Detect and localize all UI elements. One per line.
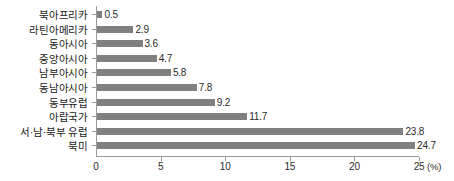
bar-chart: 북아프리카0.5라틴아메리카2.9동아시아3.6중앙아시아4.7남부아시아5.8… xyxy=(0,0,454,181)
x-axis-tick-label: 15 xyxy=(284,161,295,172)
y-axis-line xyxy=(96,6,97,156)
category-label: 동남아시아 xyxy=(0,81,92,94)
bar-row: 동남아시아7.8 xyxy=(0,81,454,94)
category-label: 북미 xyxy=(0,139,92,152)
bar-value-label: 24.7 xyxy=(415,139,436,152)
x-axis-tick-label: 10 xyxy=(220,161,231,172)
x-axis-tick-label: 20 xyxy=(349,161,360,172)
bar xyxy=(96,40,143,47)
bar xyxy=(96,55,157,62)
bar-value-label: 5.8 xyxy=(171,66,186,79)
bar-row: 북아프리카0.5 xyxy=(0,8,454,21)
bar-value-label: 0.5 xyxy=(102,8,117,21)
bar-value-label: 3.6 xyxy=(143,37,158,50)
bar xyxy=(96,128,403,135)
bar-row: 아랍국가11.7 xyxy=(0,110,454,123)
bar xyxy=(96,113,247,120)
x-axis-unit-label: (%) xyxy=(427,161,441,172)
category-label: 남부아시아 xyxy=(0,66,92,79)
bar-row: 남부아시아5.8 xyxy=(0,66,454,79)
bar xyxy=(96,99,215,106)
category-label: 중앙아시아 xyxy=(0,52,92,65)
category-label: 아랍국가 xyxy=(0,110,92,123)
bar-value-label: 2.9 xyxy=(133,23,148,36)
category-label: 서·남·북부 유럽 xyxy=(0,125,92,138)
bar-row: 동부유럽9.2 xyxy=(0,96,454,109)
category-label: 북아프리카 xyxy=(0,8,92,21)
category-label: 라틴아메리카 xyxy=(0,23,92,36)
bar-row: 중앙아시아4.7 xyxy=(0,52,454,65)
category-label: 동부유럽 xyxy=(0,96,92,109)
bar-value-label: 23.8 xyxy=(403,125,424,138)
bar xyxy=(96,84,197,91)
bar-row: 북미24.7 xyxy=(0,139,454,152)
plot-area: 북아프리카0.5라틴아메리카2.9동아시아3.6중앙아시아4.7남부아시아5.8… xyxy=(0,0,454,181)
bar-value-label: 9.2 xyxy=(215,96,230,109)
bar-value-label: 7.8 xyxy=(197,81,212,94)
bar xyxy=(96,26,133,33)
category-label: 동아시아 xyxy=(0,37,92,50)
x-axis-line xyxy=(96,156,419,157)
bar-row: 라틴아메리카2.9 xyxy=(0,23,454,36)
bar-row: 서·남·북부 유럽23.8 xyxy=(0,125,454,138)
bar-value-label: 11.7 xyxy=(247,110,267,123)
bar-row: 동아시아3.6 xyxy=(0,37,454,50)
bar xyxy=(96,69,171,76)
x-axis-tick-label: 0 xyxy=(93,161,98,172)
x-axis-tick-label: 25 xyxy=(414,161,425,172)
bar-value-label: 4.7 xyxy=(157,52,172,65)
bar xyxy=(96,142,415,149)
x-axis-tick-label: 5 xyxy=(158,161,163,172)
